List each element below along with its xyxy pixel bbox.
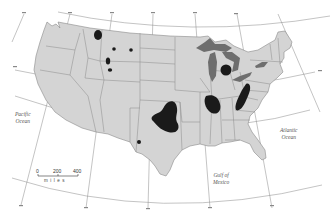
scale-tick-400: 400 xyxy=(73,168,81,174)
pacific-ocean-label: Pacific Ocean xyxy=(15,111,31,124)
region-central-montana-a xyxy=(112,47,116,51)
atlantic-ocean-label: Atlantic Ocean xyxy=(280,127,297,140)
atlantic-line-1: Atlantic xyxy=(280,127,297,134)
region-wyoming-b xyxy=(108,68,112,72)
region-nw-montana xyxy=(94,30,102,40)
pacific-line-1: Pacific xyxy=(15,111,31,118)
region-central-montana-b xyxy=(129,48,133,52)
pacific-line-2: Ocean xyxy=(15,118,31,125)
atlantic-line-2: Ocean xyxy=(280,134,297,141)
gulf-of-mexico-label: Gulf of Mexico xyxy=(213,172,229,185)
us-map xyxy=(0,0,331,220)
region-texas-panhandle xyxy=(137,140,141,144)
scale-tick-0: 0 xyxy=(36,168,39,174)
meridian-70 xyxy=(278,14,320,112)
scale-units: miles xyxy=(44,178,67,183)
region-michigan xyxy=(221,65,232,76)
gulf-line-1: Gulf of xyxy=(213,172,229,179)
scale-bar: 0 200 400 miles xyxy=(36,168,84,184)
parallel-50 xyxy=(58,12,330,27)
meridian-120 xyxy=(12,14,24,42)
scale-tick-200: 200 xyxy=(53,168,61,174)
region-wyoming-a xyxy=(106,58,110,65)
gulf-line-2: Mexico xyxy=(213,179,229,186)
